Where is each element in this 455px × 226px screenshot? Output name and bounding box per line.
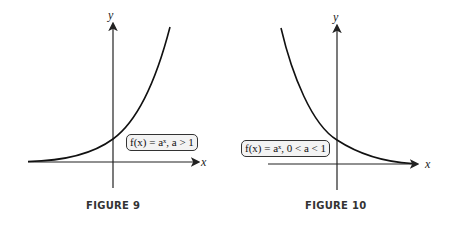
fig10-function-label: f(x) = aˣ, 0 < a < 1 <box>241 140 330 157</box>
figure-9-graph: y x <box>28 8 207 188</box>
fig10-y-label: y <box>332 10 339 24</box>
fig9-y-label: y <box>107 8 114 22</box>
fig9-function-label: f(x) = aˣ, a > 1 <box>126 134 198 151</box>
fig9-x-label: x <box>200 155 207 169</box>
figure-10-graph: y x <box>268 10 431 190</box>
figure-10-caption: FIGURE 10 <box>305 200 367 211</box>
fig10-x-label: x <box>424 157 431 171</box>
figures-canvas: y x y x <box>0 0 455 226</box>
figure-9-caption: FIGURE 9 <box>86 200 140 211</box>
